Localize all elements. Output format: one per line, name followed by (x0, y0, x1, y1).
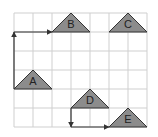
triangle-c: C (109, 13, 147, 32)
triangle-label: D (86, 94, 94, 106)
triangle-label: E (124, 113, 131, 125)
triangle-b: B (52, 13, 90, 32)
triangle-label: C (124, 18, 132, 30)
triangle-a: A (14, 70, 52, 89)
triangle-d: D (71, 89, 109, 108)
triangle-e: E (109, 108, 147, 127)
translation-diagram: ABCDE (0, 0, 158, 137)
triangle-label: A (29, 75, 37, 87)
triangle-label: B (67, 18, 74, 30)
